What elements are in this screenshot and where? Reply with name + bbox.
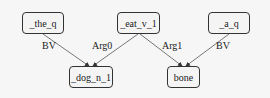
node-dog-n-1[interactable]: _dog_n_1 [69,66,113,88]
node-a-q[interactable]: _a_q [208,12,250,34]
edge-label-arg1: Arg1 [162,40,182,51]
edge-label-bv-1: BV [42,40,56,51]
node-bone[interactable]: bone [167,66,200,88]
node-eat-v-1[interactable]: _eat_v_1 [117,12,160,34]
edge-label-bv-2: BV [216,40,230,51]
node-the-q[interactable]: _the_q [22,12,64,34]
graph-canvas: _the_q _eat_v_1 _a_q _dog_n_1 bone BV Ar… [0,0,270,98]
edge-label-arg0: Arg0 [92,40,112,51]
